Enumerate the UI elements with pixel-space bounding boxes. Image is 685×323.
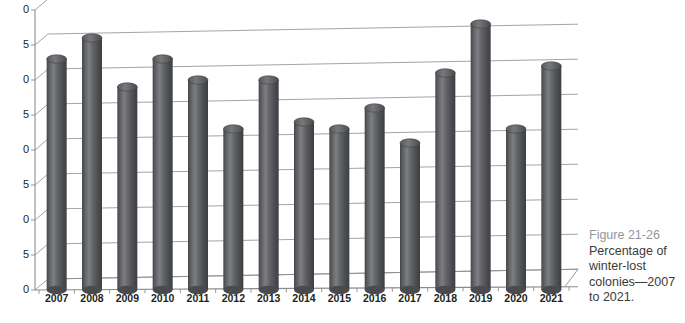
- y-axis-tick-label: 0: [0, 73, 29, 85]
- figure-container: 050505050 200720082009201020112012201320…: [0, 0, 685, 323]
- y-axis-tick-label: 5: [0, 108, 29, 120]
- chart-canvas: [0, 0, 685, 323]
- figure-caption: Figure 21-26 Percentage of winter-lost c…: [589, 228, 685, 306]
- y-axis-tick-label: 5: [0, 38, 29, 50]
- y-axis-tick-label: 5: [0, 248, 29, 260]
- y-axis-tick-label: 0: [0, 213, 29, 225]
- y-axis-tick-label: 0: [0, 3, 29, 15]
- y-axis-tick-label: 0: [0, 143, 29, 155]
- y-axis-tick-label: 0: [0, 283, 29, 295]
- bar-series: [47, 20, 562, 294]
- figure-number: Figure 21-26: [589, 228, 660, 242]
- figure-caption-text: Percentage of winter-lost colonies—2007 …: [589, 244, 675, 305]
- y-axis-tick-label: 5: [0, 178, 29, 190]
- x-axis-tick-label: 2021: [529, 292, 573, 304]
- bar-chart: 050505050 200720082009201020112012201320…: [0, 0, 685, 323]
